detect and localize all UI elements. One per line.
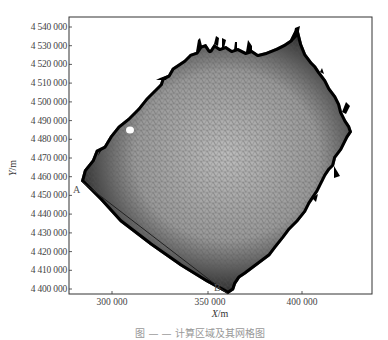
- x-tick-label: 300 000: [97, 297, 128, 307]
- y-tick-label: 4 430 000: [31, 228, 67, 238]
- y-tick-label: 4 440 000: [31, 209, 67, 219]
- y-tick-label: 4 400 000: [31, 284, 67, 294]
- y-tick-label: 4 520 000: [31, 59, 67, 69]
- y-tick-label: 4 460 000: [31, 172, 67, 182]
- island-hole: [126, 127, 134, 134]
- y-tick-label: 4 470 000: [31, 153, 67, 163]
- y-tick-label: 4 540 000: [31, 22, 67, 32]
- figure-caption: 图 — — 计算区域及其网格图: [135, 325, 265, 340]
- point-b-label: B: [214, 282, 221, 293]
- y-tick-label: 4 420 000: [31, 247, 67, 257]
- x-tick-label: 350 000: [195, 297, 226, 307]
- point-a-label: A: [73, 184, 80, 195]
- y-tick-label: 4 480 000: [31, 134, 67, 144]
- x-axis-label: X/m: [212, 308, 229, 319]
- y-tick-label: 4 530 000: [31, 41, 67, 51]
- y-tick-label: 4 450 000: [31, 190, 67, 200]
- y-axis-label: Y/m: [7, 160, 18, 176]
- y-tick-label: 4 410 000: [31, 265, 67, 275]
- y-tick-label: 4 500 000: [31, 97, 67, 107]
- y-tick-label: 4 510 000: [31, 78, 67, 88]
- y-tick-label: 4 490 000: [31, 116, 67, 126]
- x-tick-label: 400 000: [287, 297, 318, 307]
